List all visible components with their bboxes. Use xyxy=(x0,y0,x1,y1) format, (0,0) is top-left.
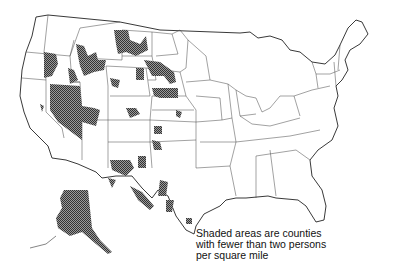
alaska-inset xyxy=(30,190,112,254)
legend-line-3: per square mile xyxy=(196,250,336,261)
us-population-density-map xyxy=(0,0,396,262)
map-legend: Shaded areas are counties with fewer tha… xyxy=(196,228,336,261)
